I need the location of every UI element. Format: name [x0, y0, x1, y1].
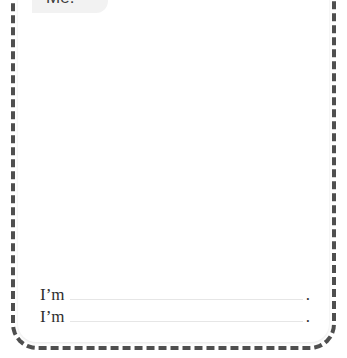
- prompt-list: I’m . I’m .: [40, 284, 310, 328]
- prompt-blank-field[interactable]: [70, 284, 303, 300]
- section-tab-me[interactable]: Me!: [32, 0, 108, 13]
- worksheet-page: Me! I’m . I’m .: [0, 0, 347, 358]
- prompt-lead-text: I’m: [40, 285, 65, 305]
- prompt-terminator: .: [306, 285, 310, 305]
- prompt-terminator: .: [306, 307, 310, 327]
- section-tab-label: Me!: [46, 0, 75, 7]
- prompt-row: I’m .: [40, 284, 310, 306]
- prompt-row: I’m .: [40, 306, 310, 328]
- prompt-blank-field[interactable]: [70, 306, 303, 322]
- prompt-lead-text: I’m: [40, 307, 65, 327]
